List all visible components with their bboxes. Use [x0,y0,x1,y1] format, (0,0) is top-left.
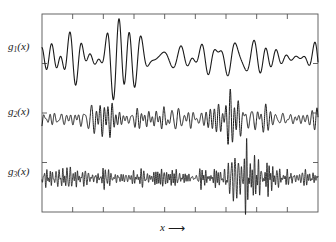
series-label-g1: g1(x) [8,40,29,52]
series-label-g1-arg: (x) [17,40,29,52]
series-label-g1-index: 1 [14,45,18,54]
series-label-g3: g3(x) [8,165,29,177]
wavelet-figure: g1(x) g2(x) g3(x) x⟶ [0,0,336,242]
series-label-g2-base: g [8,105,14,117]
x-axis-arrow-icon: ⟶ [168,222,185,234]
series-label-g3-base: g [8,165,14,177]
trace-g2 [42,89,318,144]
x-axis-label: x⟶ [160,221,185,233]
series-label-g2-index: 2 [14,110,18,119]
trace-g1 [42,19,318,100]
series-label-g2: g2(x) [8,105,29,117]
series-label-g3-arg: (x) [17,165,29,177]
trace-g3 [42,138,318,214]
series-label-g1-base: g [8,40,14,52]
series-label-g2-arg: (x) [17,105,29,117]
series-label-g3-index: 3 [14,170,18,179]
plot-canvas [0,0,336,242]
x-axis-symbol: x [160,221,165,233]
